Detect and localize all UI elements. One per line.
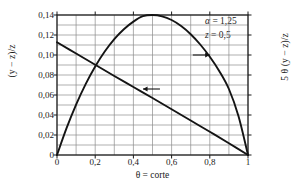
arrow-head	[143, 86, 148, 91]
plot-canvas	[0, 0, 296, 186]
axis-pointer-arrow-left	[143, 86, 160, 91]
chart-figure: (y − z)/z 5 θ (y − z)/z θ = corte 00,020…	[0, 0, 296, 186]
